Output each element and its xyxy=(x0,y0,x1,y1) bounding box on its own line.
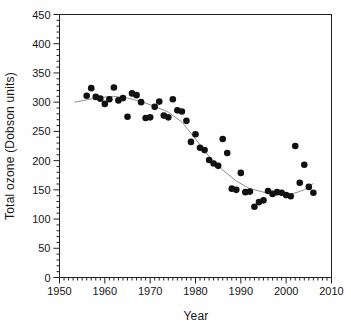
data-point xyxy=(238,170,245,177)
y-axis-title: Total ozone (Dobson units) xyxy=(3,72,17,220)
y-tick-label: 0 xyxy=(44,272,50,284)
data-point xyxy=(165,114,172,121)
data-point xyxy=(215,163,222,170)
data-point xyxy=(247,188,254,195)
y-tick-label: 350 xyxy=(32,67,50,79)
y-tick-label: 50 xyxy=(38,242,50,254)
x-tick-label: 2010 xyxy=(319,285,343,297)
x-tick-label: 1990 xyxy=(229,285,253,297)
data-point xyxy=(97,95,104,102)
y-tick-label: 300 xyxy=(32,96,50,108)
data-point xyxy=(111,84,118,91)
data-point xyxy=(188,139,195,146)
data-points xyxy=(83,84,316,210)
data-point xyxy=(219,136,226,143)
data-point xyxy=(183,118,190,125)
data-point xyxy=(83,92,90,99)
data-point xyxy=(301,161,308,168)
x-tick-label: 1970 xyxy=(138,285,162,297)
data-point xyxy=(138,99,145,106)
data-point xyxy=(306,184,313,191)
data-point xyxy=(201,147,208,154)
data-point xyxy=(292,143,299,150)
data-point xyxy=(151,104,158,111)
data-point xyxy=(106,96,113,103)
y-tick-label: 200 xyxy=(32,155,50,167)
y-tick-label: 100 xyxy=(32,213,50,225)
chart-svg: 1950196019701980199020002010050100150200… xyxy=(0,0,351,328)
data-point xyxy=(147,114,154,121)
plot-frame xyxy=(60,15,332,278)
data-point xyxy=(224,150,231,157)
data-point xyxy=(124,113,131,120)
y-tick-label: 450 xyxy=(32,9,50,21)
data-point xyxy=(260,197,267,204)
x-tick-label: 1980 xyxy=(183,285,207,297)
x-axis-title: Year xyxy=(183,309,208,323)
data-point xyxy=(287,193,294,200)
y-tick-label: 400 xyxy=(32,38,50,50)
data-point xyxy=(179,108,186,115)
x-tick-label: 1950 xyxy=(47,285,71,297)
ozone-scatter-chart: 1950196019701980199020002010050100150200… xyxy=(0,0,351,328)
data-point xyxy=(170,96,177,103)
data-point xyxy=(120,95,127,102)
data-point xyxy=(233,187,240,194)
y-axis-ticks: 050100150200250300350400450 xyxy=(32,9,59,284)
data-point xyxy=(310,189,317,196)
data-point xyxy=(156,98,163,105)
y-tick-label: 150 xyxy=(32,184,50,196)
x-tick-label: 2000 xyxy=(274,285,298,297)
y-tick-label: 250 xyxy=(32,125,50,137)
data-point xyxy=(192,131,199,138)
data-point xyxy=(296,180,303,187)
x-tick-label: 1960 xyxy=(93,285,117,297)
data-point xyxy=(88,85,95,92)
data-point xyxy=(133,92,140,99)
trend-line xyxy=(74,96,313,194)
